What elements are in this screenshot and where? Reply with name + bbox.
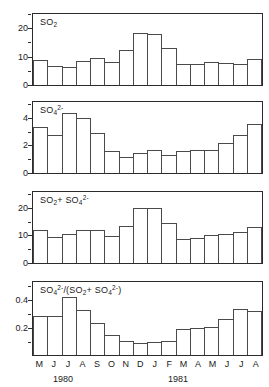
bar <box>161 155 176 173</box>
ytick-label-so4-0: 0 <box>2 169 28 178</box>
ytick-mark-so2-25 <box>28 14 31 15</box>
bar <box>147 150 162 173</box>
bar <box>62 113 77 173</box>
bar <box>62 67 77 85</box>
bar <box>133 153 148 173</box>
bar <box>190 150 205 173</box>
bar <box>247 227 262 263</box>
bar <box>47 237 62 263</box>
bar <box>133 343 148 355</box>
bar <box>247 311 262 355</box>
bar <box>90 58 105 85</box>
bar <box>119 341 134 355</box>
ytick-label-sum-10: 10 <box>2 231 28 240</box>
x-axis-month-label: J <box>46 360 60 369</box>
x-axis-month-label: J <box>61 360 75 369</box>
bar <box>33 316 48 355</box>
x-axis-month-label: O <box>104 360 118 369</box>
bar-series-so4 <box>33 102 262 173</box>
bar <box>62 234 77 263</box>
bar <box>147 208 162 263</box>
bar <box>247 124 262 173</box>
x-axis-month-label: J <box>220 360 234 369</box>
x-axis-month-label: J <box>234 360 248 369</box>
x-axis-month-label: A <box>191 360 205 369</box>
bar <box>133 33 148 85</box>
x-axis-month-label: N <box>119 360 133 369</box>
ytick-label-so2-20: 20 <box>2 24 28 33</box>
bar <box>76 230 91 263</box>
bar <box>47 135 62 173</box>
ytick-mark-so4-1 <box>28 159 31 160</box>
bar <box>104 335 119 355</box>
x-axis-month-label: F <box>162 360 176 369</box>
ytick-mark-so2-5 <box>28 71 31 72</box>
panel-so2-plus-so4: 20 10 0 SO2+ SO42- <box>0 182 269 272</box>
ytick-label-so4-2: 2 <box>2 141 28 150</box>
x-axis-month-label: D <box>133 360 147 369</box>
bar <box>190 328 205 355</box>
bar <box>190 238 205 263</box>
bar <box>233 309 248 355</box>
x-axis-month-label: M <box>32 360 46 369</box>
bar-series-so2 <box>33 14 262 85</box>
bar <box>176 151 191 173</box>
panel-ratio: 0.4 0.2 SO42-/(SO2+ SO42-) MJJASONDJFMAM… <box>0 272 269 387</box>
panel-so2: 20 10 0 SO2 <box>0 0 269 92</box>
bar <box>119 157 134 173</box>
bar <box>233 232 248 263</box>
ytick-label-sum-20: 20 <box>2 204 28 213</box>
bar <box>119 226 134 263</box>
figure-root: 20 10 0 SO2 4 2 0 SO42- 20 10 0 <box>0 0 269 387</box>
ytick-mark-so4-3 <box>28 132 31 133</box>
bar <box>204 327 219 355</box>
x-axis-month-label: S <box>90 360 104 369</box>
panel-title-ratio: SO42-/(SO2+ SO42-) <box>40 285 121 297</box>
bar <box>161 341 176 355</box>
ytick-mark-so2-15 <box>28 42 31 43</box>
plotbox-so4 <box>32 101 263 174</box>
ytick-mark-ratio-03 <box>28 314 31 315</box>
ytick-label-ratio-02: 0.2 <box>0 324 28 333</box>
ytick-label-so2-10: 10 <box>2 53 28 62</box>
ytick-mark-sum-25 <box>28 194 31 195</box>
x-axis: MJJASONDJFMAMJJA 1980 1981 <box>0 358 269 387</box>
x-axis-year-1980: 1980 <box>53 375 73 384</box>
bar <box>218 234 233 263</box>
bar <box>47 66 62 85</box>
bar <box>176 329 191 355</box>
bar <box>47 316 62 355</box>
bar <box>33 230 48 263</box>
ytick-mark-sum-5 <box>28 249 31 250</box>
bar <box>233 64 248 85</box>
panel-title-sum: SO2+ SO42- <box>40 195 89 207</box>
bar <box>161 223 176 263</box>
bar <box>104 151 119 173</box>
bar <box>104 62 119 85</box>
bar <box>90 230 105 263</box>
bar <box>233 135 248 173</box>
bar <box>76 310 91 355</box>
bar <box>104 236 119 263</box>
bar <box>33 127 48 173</box>
ytick-mark-so4-5 <box>28 104 31 105</box>
bar <box>161 48 176 85</box>
bar <box>62 297 77 355</box>
bar <box>133 208 148 263</box>
x-axis-month-label: A <box>75 360 89 369</box>
x-axis-month-label: A <box>249 360 263 369</box>
bar <box>218 319 233 355</box>
bar <box>119 50 134 85</box>
bar <box>147 342 162 355</box>
ytick-mark-ratio-01 <box>28 342 31 343</box>
panel-title-so2: SO2 <box>40 18 57 29</box>
bar <box>76 118 91 173</box>
plotbox-so2 <box>32 13 263 86</box>
bar <box>247 59 262 85</box>
panel-title-so4: SO42- <box>40 105 63 117</box>
ytick-mark-sum-15 <box>28 222 31 223</box>
x-axis-month-label: M <box>205 360 219 369</box>
bar <box>204 150 219 173</box>
bar <box>76 61 91 85</box>
bar <box>90 323 105 355</box>
